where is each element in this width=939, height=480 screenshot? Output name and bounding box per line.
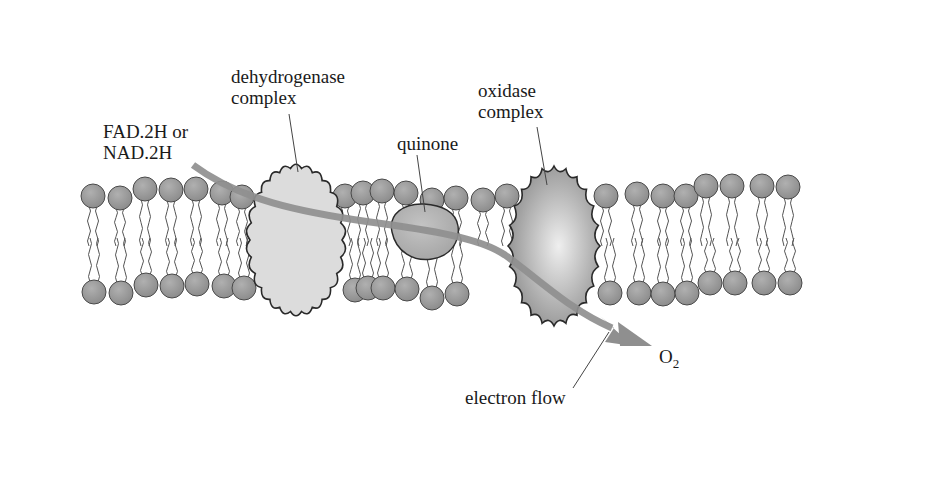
electron-flow-leader <box>573 332 609 388</box>
oxygen-subscript: 2 <box>673 356 680 371</box>
oxygen-label: O2 <box>659 346 679 369</box>
oxygen-symbol: O <box>659 346 673 367</box>
diagram-canvas <box>0 0 939 480</box>
membrane-diagram: FAD.2H or NAD.2H dehydrogenase complex q… <box>0 0 939 480</box>
donor-label-line1: FAD.2H or <box>103 121 188 142</box>
dehydrogenase-complex-shape <box>246 164 345 316</box>
oxidase-complex-shape <box>508 166 600 326</box>
electron-flow-label-line1: electron flow <box>465 387 566 408</box>
oxidase-label-line2: complex <box>478 101 543 122</box>
oxidase-label-line1: oxidase <box>478 80 543 101</box>
quinone-label: quinone <box>397 133 458 154</box>
quinone-label-line1: quinone <box>397 133 458 154</box>
dehydrogenase-label-line1: dehydrogenase <box>231 66 345 87</box>
dehydrogenase-label: dehydrogenase complex <box>231 66 345 108</box>
phospholipid-heads-inner <box>82 271 802 310</box>
oxidase-label: oxidase complex <box>478 80 543 122</box>
dehydrogenase-leader <box>289 114 298 172</box>
phospholipid-heads-outer <box>81 174 800 212</box>
dehydrogenase-label-line2: complex <box>231 87 345 108</box>
donor-label-line2: NAD.2H <box>103 142 188 163</box>
electron-flow-arrowhead-body <box>618 322 652 346</box>
electron-flow-label: electron flow <box>465 387 566 408</box>
donor-label: FAD.2H or NAD.2H <box>103 121 188 163</box>
